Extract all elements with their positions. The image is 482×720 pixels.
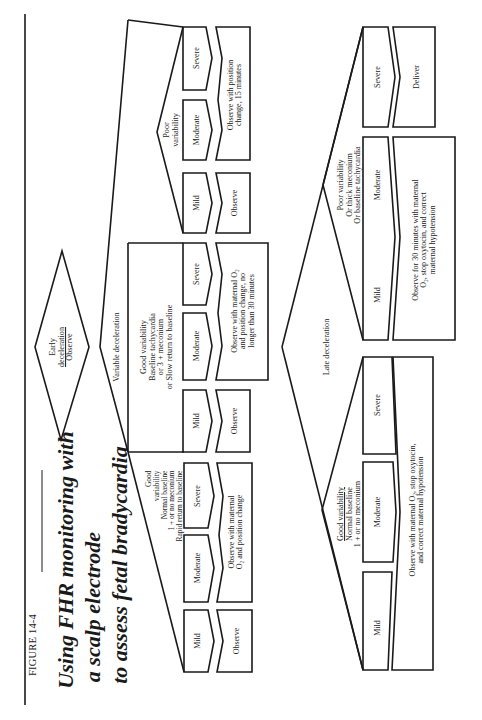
title-line-2: a scalp electrode [82,532,104,682]
variable-normal-severe: Severe [194,485,202,507]
variable-tachy-severe: Severe [193,263,201,285]
variable-poor-action-modsev: Observe with position change, 15 minutes [227,60,244,131]
variable-normal-action-modsev: Observe with maternal O₂ and position ch… [228,495,245,570]
variable-poor-severe: Severe [193,47,201,69]
early-deceleration-label: Early deceleration Observe [49,327,75,367]
variable-normal-action-mild: Observe [233,628,241,655]
early-line-3: Observe [66,327,75,367]
variable-tachy-action-modsev: Observe with maternal O₂ and position ch… [231,269,256,352]
late-poor-action-severe: Deliver [413,65,421,89]
variable-deceleration-label: Variable deceleration [113,312,122,381]
criteria-line: Or baseline tachycardia [354,146,363,223]
criteria-line: 1 + or no meconium [354,481,363,547]
action-line: and correct maternal hypotension [417,444,425,577]
late-poor-mild: Mild [374,287,382,303]
late-poor-action-mildmod: Observe for 30 minutes with maternal O₂,… [412,179,437,301]
variable-poor-action-mild: Observe [231,190,239,217]
title-line-1: Using FHR monitoring with [55,431,77,688]
action-line: longer than 30 minutes [248,269,256,352]
action-line: O₂ and position change [236,495,244,570]
variable-tachy-mild: Mild [193,413,201,429]
criteria-line: variability [172,113,181,147]
criteria-line: Rapid return to baseline [176,471,184,542]
variable-triangle-sides [100,20,128,452]
late-good-criteria: Good variability Normal baseline 1 + or … [337,481,363,547]
variable-good-normal-criteria: Good variability Normal baseline 1 + or … [145,471,184,542]
action-line: maternal hypotension [429,179,437,301]
late-good-action: Observe with maternal O₂, stop oxytocin,… [409,444,426,577]
late-poor-criteria: Poor variability Or thick meconium Or ba… [337,146,363,223]
late-good-severe: Severe [374,394,382,416]
late-good-mild: Mild [374,620,382,636]
variable-poor-criteria: Poor variability [163,113,180,147]
variable-normal-moderate: Moderate [194,553,202,584]
criteria-text: Good variability [336,487,345,541]
late-poor-moderate: Moderate [374,170,382,201]
variable-tachy-moderate: Moderate [193,331,201,362]
action-line: change, 15 minutes [235,60,243,131]
late-poor-severe: Severe [374,66,382,88]
variable-normal-mild: Mild [194,633,202,649]
variable-poor-mild: Mild [193,195,201,211]
late-deceleration-label: Late deceleration [323,319,332,376]
variable-good-tachy-criteria: Good variability Baseline tachycardia or… [140,305,174,390]
variable-poor-moderate: Moderate [193,115,201,146]
late-good-moderate: Moderate [374,497,382,528]
criteria-line: or Slow return to baseline [166,305,175,390]
variable-tachy-action-mild: Observe [231,408,239,435]
figure-label: FIGURE 14-4 [27,614,38,676]
title-line-3: to assess fetal bradycardia [109,446,131,684]
